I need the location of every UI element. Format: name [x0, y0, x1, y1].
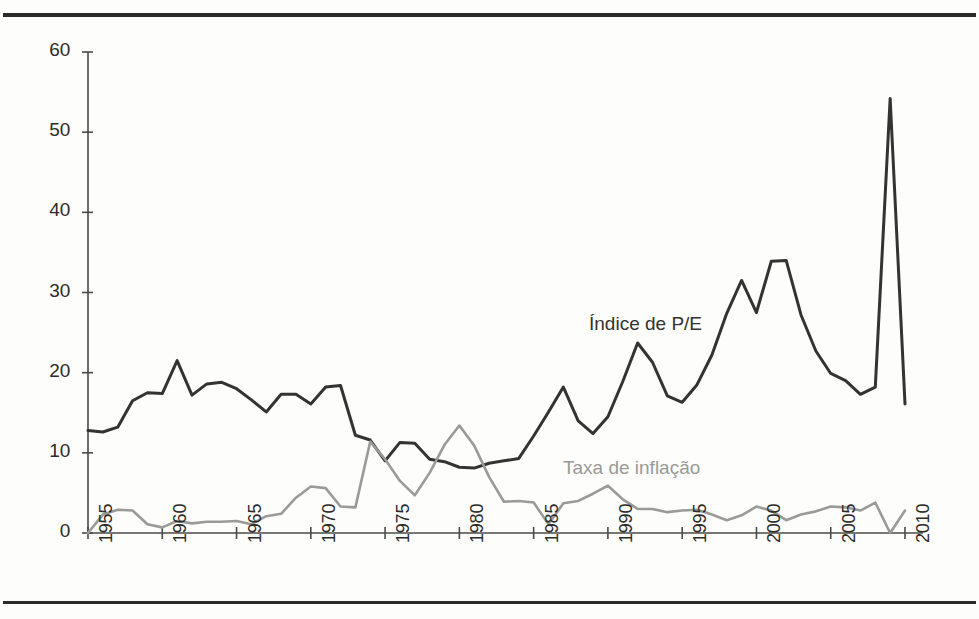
x-tick-label: 2000: [764, 504, 785, 543]
x-tick-label: 1965: [245, 504, 266, 543]
y-tick-label: 10: [36, 440, 70, 462]
figure-container: 0102030405060 19551960196519701975198019…: [0, 0, 979, 619]
x-tick-label: 2010: [913, 504, 934, 543]
series-group: [88, 99, 905, 534]
x-tick-label: 1970: [319, 504, 340, 543]
x-tick-label: 1990: [616, 504, 637, 543]
series-label-inflation: Taxa de inflação: [563, 457, 700, 479]
x-tick-label: 1955: [96, 504, 117, 543]
y-tick-label: 20: [36, 360, 70, 382]
x-tick-label: 1985: [542, 504, 563, 543]
y-tick-label: 40: [36, 199, 70, 221]
series-label-pe: Índice de P/E: [589, 313, 702, 335]
y-tick-label: 50: [36, 119, 70, 141]
y-tick-label: 30: [36, 280, 70, 302]
x-tick-label: 1960: [170, 504, 191, 543]
series-line-pe: [88, 99, 905, 469]
x-tick-label: 1975: [393, 504, 414, 543]
x-tick-label: 2005: [839, 504, 860, 543]
x-tick-label: 1995: [690, 504, 711, 543]
x-tick-label: 1980: [467, 504, 488, 543]
y-tick-label: 60: [36, 39, 70, 61]
line-chart-plot: [0, 0, 979, 619]
y-tick-label: 0: [36, 520, 70, 542]
